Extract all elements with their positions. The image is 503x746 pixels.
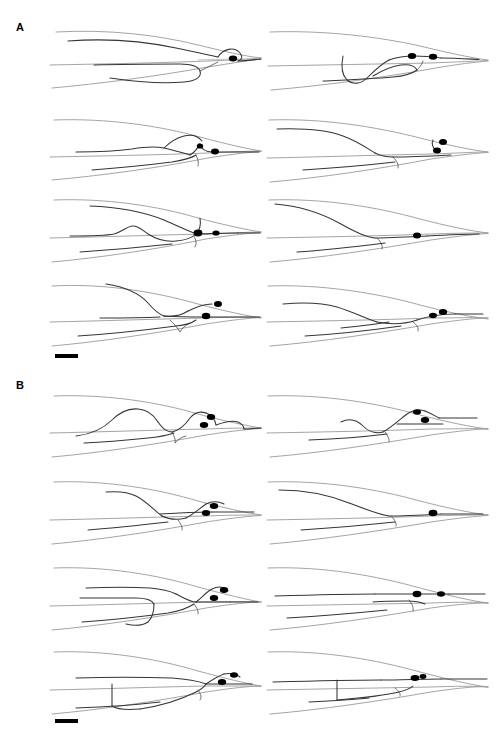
panel-label-a: A (16, 22, 24, 33)
neuron-tracing-a-r1-c2 (265, 18, 490, 96)
neuron-tracing-b-r3-c2 (265, 556, 490, 636)
neuron-tracing-b-r1-c2 (265, 382, 490, 462)
neuron-tracing-b-r2-c1 (48, 468, 263, 548)
neuron-tracing-a-r2-c2 (265, 108, 490, 186)
neuron-tracing-a-r1-c1 (48, 18, 263, 96)
neuron-tracing-a-r4-c1 (48, 270, 263, 352)
neuron-tracing-a-r3-c1 (48, 188, 263, 268)
neuron-tracing-b-r3-c1 (48, 556, 263, 636)
figure-canvas: A B (0, 0, 503, 746)
neuron-tracing-a-r3-c2 (265, 188, 490, 268)
neuron-tracing-a-r2-c1 (48, 108, 263, 186)
neuron-tracing-b-r4-c2 (265, 640, 490, 720)
scale-bar-panel-a (55, 354, 78, 358)
neuron-tracing-b-r2-c2 (265, 468, 490, 548)
neuron-tracing-a-r4-c2 (265, 270, 490, 352)
neuron-tracing-b-r1-c1 (48, 382, 263, 462)
panel-label-b: B (16, 380, 24, 391)
neuron-tracing-b-r4-c1 (48, 640, 263, 720)
